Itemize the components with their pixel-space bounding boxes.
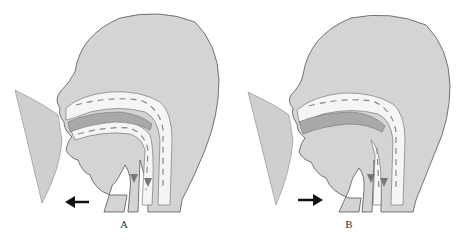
arrow-right-icon [298, 194, 323, 206]
infant-breastfeeding-diagram-a [0, 0, 231, 241]
breast-shape [15, 90, 62, 203]
infant-breastfeeding-diagram-b [231, 0, 463, 241]
breast-shape [248, 92, 293, 205]
arrow-left-icon [65, 196, 89, 208]
panel-a: A [0, 0, 231, 241]
panel-label-b: B [339, 218, 359, 230]
panel-label-a: A [114, 218, 134, 230]
panel-b: B [231, 0, 462, 241]
